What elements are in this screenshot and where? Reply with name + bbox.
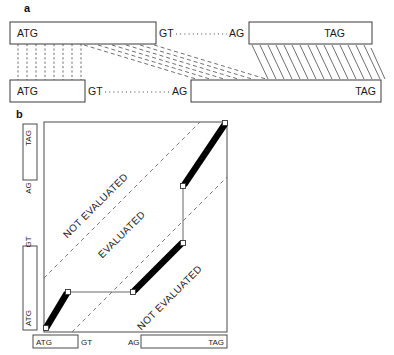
top-exon2-stop-codon: TAG <box>324 27 345 39</box>
alignment-marker-exon1-end <box>66 290 71 295</box>
x-axis-label-stop: TAG <box>208 338 224 347</box>
panel-a-letter: a <box>24 2 30 14</box>
panel-a-slanted-connectors <box>84 45 266 79</box>
top-acceptor-label: AG <box>229 27 244 39</box>
x-axis-label-start: ATG <box>36 338 52 347</box>
alignment-marker-intron-start <box>181 241 186 246</box>
panel-a-group: ATG GT AG TAG ATG GT AG TAG <box>10 22 385 102</box>
figure-canvas: ATG GT AG TAG ATG GT AG TAG <box>0 0 394 355</box>
alignment-marker-origin <box>44 326 49 331</box>
top-donor-label: GT <box>159 27 174 39</box>
top-exon2-box <box>249 22 372 44</box>
panel-b-letter: b <box>16 108 23 120</box>
bottom-donor-label: GT <box>88 85 103 97</box>
panel-a-hatched-band <box>252 45 385 79</box>
bottom-acceptor-label: AG <box>172 85 187 97</box>
bottom-exon2-box <box>191 80 381 102</box>
alignment-marker-exon2-start <box>131 290 136 295</box>
y-axis-label-stop: TAG <box>24 130 33 146</box>
panel-a-top-model: ATG GT AG TAG <box>10 22 372 44</box>
bottom-exon2-stop-codon: TAG <box>355 85 376 97</box>
panel-b-group: TAG AG GT ATG ATG GT AG TAG <box>23 121 228 349</box>
figure-root: a b <box>0 0 394 355</box>
alignment-marker-terminus <box>223 121 228 126</box>
top-exon1-start-codon: ATG <box>17 27 38 39</box>
y-axis-label-donor: GT <box>24 236 33 247</box>
alignment-marker-intron-end <box>181 184 186 189</box>
y-axis-label-acceptor: AG <box>24 182 33 194</box>
bottom-exon1-start-codon: ATG <box>17 85 38 97</box>
dotplot-x-axis: ATG GT AG TAG <box>33 335 227 348</box>
x-axis-label-acceptor: AG <box>128 338 140 347</box>
panel-a-tie-lines <box>18 44 81 80</box>
dotplot-y-axis: TAG AG GT ATG <box>23 124 37 330</box>
panel-a-bottom-model: ATG GT AG TAG <box>10 80 381 102</box>
x-axis-label-donor: GT <box>81 338 92 347</box>
y-axis-label-start: ATG <box>24 310 33 326</box>
